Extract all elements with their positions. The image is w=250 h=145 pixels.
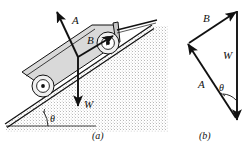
vector-a-label-panel-a: A bbox=[71, 14, 79, 26]
vector-w-label-panel-a: W bbox=[84, 98, 94, 110]
vector-b-panel-b bbox=[189, 12, 236, 43]
vector-b-label-panel-b: B bbox=[203, 12, 210, 24]
physics-figure: θ bbox=[0, 0, 250, 145]
vector-a-label-panel-b: A bbox=[197, 78, 205, 90]
panel-a: θ bbox=[5, 12, 168, 142]
triangle-angle-label: θ bbox=[219, 82, 224, 93]
panel-b-caption: (b) bbox=[199, 130, 211, 142]
cart-wheel-rear bbox=[32, 75, 54, 97]
panel-b: B W A θ (b) bbox=[188, 11, 237, 142]
incline-angle-label: θ bbox=[50, 113, 55, 124]
figure-canvas: θ bbox=[0, 0, 250, 145]
vector-b-label-panel-a: B bbox=[87, 34, 94, 46]
panel-a-caption: (a) bbox=[92, 130, 104, 142]
vector-w-label-panel-b: W bbox=[223, 49, 233, 61]
